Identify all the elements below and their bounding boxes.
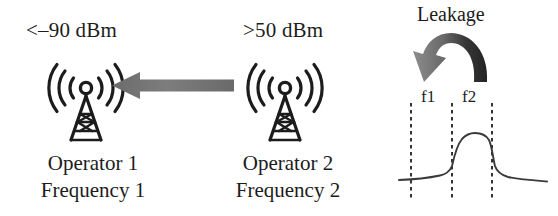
spectrum-plot [399,103,547,201]
antenna-hub-icon [80,82,91,93]
antenna-tower-icon-left [49,65,123,141]
curved-arrow-icon [413,33,487,82]
antenna-hub-icon [279,82,290,93]
antenna-tower-icon-right [248,65,322,141]
leakage-figure: <–90 dBm Operator 1 Frequency 1 >50 dBm … [0,0,558,216]
interference-arrow-icon [112,72,234,99]
figure-vector-layer [0,0,558,216]
spectrum-curve [399,133,547,182]
